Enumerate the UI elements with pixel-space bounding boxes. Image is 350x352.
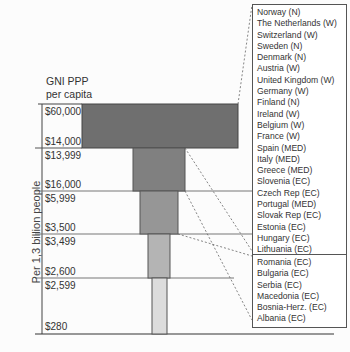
dashed-connector — [178, 234, 252, 256]
tier-4-bottom-label: $2,600 — [45, 266, 76, 277]
y-axis-label: Per 1,3 billion people — [30, 152, 42, 312]
legend-item: Germany (W) — [257, 86, 343, 97]
chart-header: GNI PPP per capita — [46, 75, 92, 101]
legend-item: Italy (MED) — [257, 154, 343, 165]
tier-1-bottom-label: $14,000 — [45, 136, 81, 147]
tier-4-top-label: $3,499 — [45, 236, 76, 247]
dashed-connector — [185, 148, 252, 251]
legend-item: Estonia (EC) — [257, 222, 343, 233]
tier-5-bottom-label: $280 — [45, 321, 67, 332]
legend-item: Denmark (N) — [257, 52, 343, 63]
legend-item: Sweden (N) — [257, 41, 343, 52]
legend-item: Greece (MED) — [257, 165, 343, 176]
legend-item: Slovak Rep (EC) — [257, 210, 343, 221]
legend-item: Albania (EC) — [257, 313, 343, 324]
header-line-2: per capita — [46, 88, 92, 101]
legend-item: Serbia (EC) — [257, 280, 343, 291]
funnel-tier-4 — [148, 234, 170, 278]
tier-2-top-label: $13,999 — [45, 150, 81, 161]
legend-item: Bulgaria (EC) — [257, 268, 343, 279]
legend-item: Portugal (MED) — [257, 199, 343, 210]
dashed-connector — [238, 5, 252, 104]
legend-box-low-income: Romania (EC) Bulgaria (EC) Serbia (EC) M… — [252, 254, 347, 328]
legend-item: Norway (N) — [257, 7, 343, 18]
legend-item: Austria (W) — [257, 63, 343, 74]
legend-item: United Kingdom (W) — [257, 75, 343, 86]
legend-item: Belgium (W) — [257, 120, 343, 131]
legend-item: Czech Rep (EC) — [257, 188, 343, 199]
legend-item: Romania (EC) — [257, 257, 343, 268]
funnel-tier-5 — [152, 278, 167, 334]
legend-item: Bosnia-Herz. (EC) — [257, 302, 343, 313]
funnel-tier-3 — [140, 191, 178, 234]
header-line-1: GNI PPP — [46, 75, 92, 88]
legend-item: Switzerland (W) — [257, 30, 343, 41]
funnel-tier-1 — [82, 104, 238, 148]
dashed-connector — [185, 191, 252, 320]
tier-2-bottom-label: $16,000 — [45, 179, 81, 190]
tier-3-bottom-label: $3,500 — [45, 222, 76, 233]
legend-item: Ireland (W) — [257, 109, 343, 120]
legend-box-high-income: Norway (N) The Netherlands (W) Switzerla… — [252, 4, 347, 292]
tier-5-top-label: $2,599 — [45, 280, 76, 291]
legend-item: Hungary (EC) — [257, 233, 343, 244]
funnel-tier-2 — [133, 148, 185, 191]
tier-3-top-label: $5,999 — [45, 193, 76, 204]
legend-item: Macedonia (EC) — [257, 291, 343, 302]
tier-1-top-label: $60,000 — [45, 106, 81, 117]
legend-item: France (W) — [257, 131, 343, 142]
legend-item: Spain (MED) — [257, 143, 343, 154]
legend-item: The Netherlands (W) — [257, 18, 343, 29]
legend-item: Finland (N) — [257, 97, 343, 108]
legend-item: Slovenia (EC) — [257, 176, 343, 187]
